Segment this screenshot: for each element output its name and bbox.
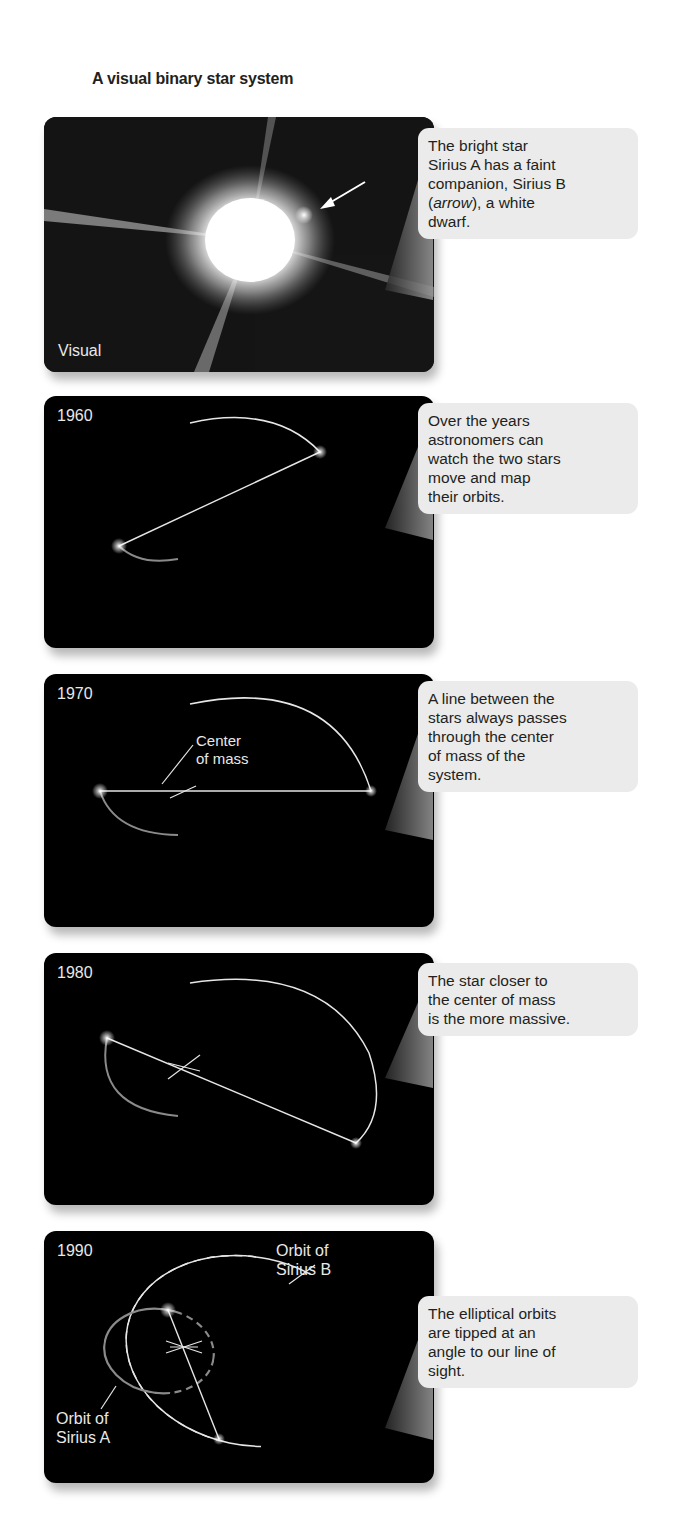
callout-text: The elliptical orbits — [428, 1304, 628, 1323]
callout-1980: The star closer to the center of mass is… — [418, 963, 638, 1036]
callout-text: move and map — [428, 468, 628, 487]
star-sirius-a — [111, 538, 127, 554]
year-label: 1980 — [57, 964, 93, 982]
star-sirius-b — [365, 785, 377, 797]
panel-1990: 1990 Orbit of Sirius B Orbit of Sirius A — [44, 1231, 434, 1483]
callout-text: through the center — [428, 727, 628, 746]
orbit-b-arc — [190, 979, 377, 1143]
panel-1960: 1960 — [44, 396, 434, 648]
center-of-mass-leader — [162, 745, 193, 784]
orbit-b-arc — [190, 418, 320, 452]
orbit-diagram-1980 — [44, 953, 434, 1205]
center-of-mass-label: Center of mass — [196, 732, 249, 768]
panel-1970: 1970 Center of mass — [44, 674, 434, 927]
callout-text: of mass of the — [428, 746, 628, 765]
callout-text: their orbits. — [428, 487, 628, 506]
orbit-a-arc — [105, 1038, 178, 1116]
year-label: 1960 — [57, 407, 93, 425]
panel-visual-photo: Visual — [44, 117, 434, 372]
callout-text: Over the years — [428, 411, 628, 430]
callout-1990: The elliptical orbits are tipped at an a… — [418, 1296, 638, 1388]
orbit-diagram-1960 — [44, 396, 434, 648]
callout-text: are tipped at an — [428, 1323, 628, 1342]
figure-title: A visual binary star system — [92, 70, 293, 88]
sirius-b-star — [295, 206, 313, 224]
star-sirius-b — [213, 1433, 225, 1445]
callout-text: watch the two stars — [428, 449, 628, 468]
callout-text: dwarf. — [428, 212, 628, 231]
callout-text: A line between the — [428, 689, 628, 708]
orbit-a-label: Orbit of Sirius A — [56, 1409, 110, 1447]
callout-text: angle to our line of — [428, 1342, 628, 1361]
sirius-photo — [44, 117, 434, 372]
callout-visual: The bright star Sirius A has a faint com… — [418, 128, 638, 239]
callout-text: companion, Sirius B — [428, 174, 628, 193]
center-of-mass-marker — [170, 786, 196, 798]
orbit-a-arc — [100, 791, 178, 835]
visual-label: Visual — [58, 342, 101, 360]
star-sirius-a — [160, 1302, 176, 1318]
callout-1960: Over the years astronomers can watch the… — [418, 403, 638, 514]
orbit-a-arc — [119, 546, 178, 561]
callout-text: system. — [428, 765, 628, 784]
orbit-b-label: Orbit of Sirius B — [276, 1241, 331, 1279]
callout-text: astronomers can — [428, 430, 628, 449]
callout-text: the center of mass — [428, 990, 628, 1009]
orbit-diagram-1970 — [44, 674, 434, 927]
callout-text: (arrow), a white — [428, 193, 628, 212]
panel-1980: 1980 — [44, 953, 434, 1205]
orbit-a-leader — [101, 1386, 116, 1409]
callout-text: is the more massive. — [428, 1009, 628, 1028]
year-label: 1990 — [57, 1242, 93, 1260]
orbit-sirius-b — [108, 1233, 390, 1468]
star-sirius-a — [99, 1030, 115, 1046]
callout-text: stars always passes — [428, 708, 628, 727]
orbit-sirius-a — [99, 1302, 220, 1400]
orbit-sirius-a-hidden — [99, 1302, 220, 1400]
callout-text: sight. — [428, 1361, 628, 1380]
star-sirius-b — [350, 1137, 362, 1149]
callout-1970: A line between the stars always passes t… — [418, 681, 638, 792]
orbit-sirius-b-hidden — [108, 1233, 390, 1468]
star-sirius-b — [313, 445, 327, 459]
year-label: 1970 — [57, 685, 93, 703]
callout-text: The bright star — [428, 136, 628, 155]
callout-text: The star closer to — [428, 971, 628, 990]
star-sirius-a — [92, 783, 108, 799]
callout-text: Sirius A has a faint — [428, 155, 628, 174]
